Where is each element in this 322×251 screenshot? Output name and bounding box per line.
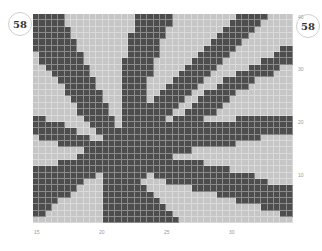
pattern-chart-grid <box>33 14 293 223</box>
row-label: 30 <box>298 66 304 72</box>
column-label: 30 <box>229 229 235 235</box>
page-number-badge-left: 58 <box>8 12 32 36</box>
row-label: 40 <box>298 14 304 20</box>
column-label: 15 <box>34 229 40 235</box>
column-label: 25 <box>164 229 170 235</box>
row-label: 10 <box>298 172 304 178</box>
row-label: 20 <box>298 119 304 125</box>
page-number-right: 58 <box>301 21 315 32</box>
column-label: 20 <box>99 229 105 235</box>
chart-cell <box>287 217 293 223</box>
page-number-left: 58 <box>13 19 27 30</box>
